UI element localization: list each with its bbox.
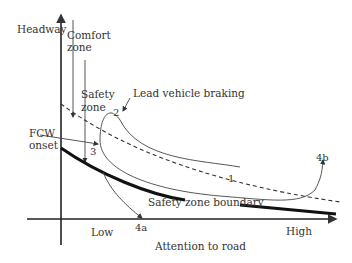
point-4b: 4b [316, 152, 329, 163]
lead-vehicle-label: Lead vehicle braking [133, 87, 245, 99]
fcw-label-2: onset [29, 139, 59, 151]
x-axis-label: Attention to road [154, 240, 246, 252]
branch-4a-curve [103, 172, 142, 218]
fcw-label: FCW [29, 127, 55, 139]
safety-zone-label-2: zone [81, 101, 106, 113]
lead-vehicle-pointer [123, 98, 130, 111]
point-1: 1 [228, 173, 234, 184]
x-high-label: High [286, 225, 312, 237]
x-low-label: Low [91, 226, 113, 238]
boundary-label: Safety zone boundary [148, 196, 264, 208]
y-axis-label: Headway [17, 23, 67, 35]
comfort-zone-label: Comfort [67, 29, 112, 41]
safety-zone-label: Safety [81, 88, 115, 100]
point-3: 3 [90, 146, 96, 157]
comfort-zone-label-2: zone [67, 41, 92, 53]
point-4a: 4a [135, 222, 147, 233]
headway-attention-diagram: Headway Comfort zone Safety zone Lead ve… [0, 0, 352, 263]
safety-zone-boundary [61, 148, 185, 200]
point-2: 2 [113, 107, 119, 118]
diagram-canvas: Headway Comfort zone Safety zone Lead ve… [0, 0, 352, 263]
